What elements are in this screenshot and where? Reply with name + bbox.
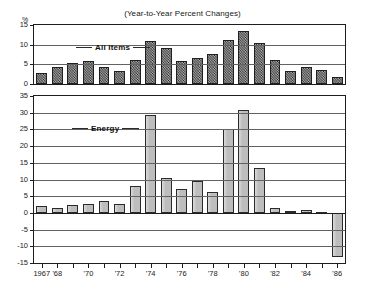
page-title: (Year-to-Year Percent Changes): [0, 9, 365, 18]
chart-page: (Year-to-Year Percent Changes) 151050 % …: [0, 0, 365, 301]
x-axis-tick-mark: [166, 264, 167, 268]
x-axis-tick-mark: [228, 264, 229, 268]
x-axis-tick-mark: [337, 264, 338, 268]
gridline: [34, 64, 345, 65]
gridline: [34, 163, 345, 164]
leader-line-right: [133, 47, 150, 48]
gridline: [34, 230, 345, 231]
bar: [207, 192, 218, 213]
x-axis-tick-label: '78: [208, 269, 218, 278]
y-axis-tick-mark: [30, 84, 33, 85]
gridline: [34, 246, 345, 247]
bar: [176, 189, 187, 213]
y-axis-tick-mark: [30, 64, 33, 65]
x-axis-tick-label: '72: [115, 269, 125, 278]
x-axis-tick-label: '82: [270, 269, 280, 278]
bar: [238, 31, 249, 84]
bar: [238, 110, 249, 213]
bar: [52, 67, 63, 84]
leader-line-left: [72, 128, 88, 129]
y-axis-tick-mark: [30, 163, 33, 164]
gridline: [34, 146, 345, 147]
series-label-energy-text: Energy: [88, 124, 122, 133]
series-label-energy: Energy: [72, 124, 139, 133]
bar: [316, 70, 327, 84]
bar: [301, 67, 312, 84]
x-axis-tick-label: '68: [52, 269, 62, 278]
y-axis-tick-label: 25: [6, 125, 28, 133]
x-axis-tick-mark: [291, 264, 292, 268]
bar: [36, 206, 47, 213]
bar: [130, 186, 141, 213]
x-axis-tick-mark: [259, 264, 260, 268]
y-axis-tick-label: 10: [6, 41, 28, 49]
x-axis-tick-mark: [306, 264, 307, 268]
y-axis-tick-label: 15: [6, 159, 28, 167]
x-axis-tick-mark: [120, 264, 121, 268]
y-axis-tick-mark: [30, 113, 33, 114]
y-axis-tick-label: -10: [6, 242, 28, 250]
bar: [114, 71, 125, 84]
x-axis-tick-mark: [151, 264, 152, 268]
x-axis-tick-label: '84: [301, 269, 311, 278]
y-axis-tick-mark: [30, 213, 33, 214]
y-axis-tick-mark: [30, 196, 33, 197]
bar: [223, 40, 234, 84]
y-axis-tick-mark: [30, 246, 33, 247]
y-axis-tick-mark: [30, 180, 33, 181]
y-axis-tick-label: 0: [6, 80, 28, 88]
bar: [254, 168, 265, 213]
bar: [99, 67, 110, 84]
x-axis-tick-mark: [73, 264, 74, 268]
bar-series-all-items: [33, 24, 346, 85]
leader-line-right: [122, 128, 139, 129]
gridline: [34, 196, 345, 197]
y-axis-tick-mark: [30, 230, 33, 231]
bar: [99, 201, 110, 213]
x-axis-tick-mark: [104, 264, 105, 268]
series-label-all-items-text: All Items: [92, 43, 133, 52]
y-axis-tick-mark: [30, 96, 33, 97]
x-axis-tick-mark: [182, 264, 183, 268]
x-axis-tick-mark: [213, 264, 214, 268]
gridline: [34, 113, 345, 114]
y-axis-tick-label: 5: [6, 60, 28, 68]
y-axis-tick-label: 30: [6, 109, 28, 117]
bar: [285, 71, 296, 84]
gridline: [34, 180, 345, 181]
series-label-all-items: All Items: [76, 43, 150, 52]
bar: [192, 181, 203, 213]
y-axis-tick-label: 5: [6, 192, 28, 200]
y-axis-tick-mark: [30, 146, 33, 147]
bar: [67, 63, 78, 84]
x-axis-tick-label: '86: [332, 269, 342, 278]
bar: [67, 205, 78, 213]
x-axis-tick-mark: [244, 264, 245, 268]
bar: [207, 54, 218, 84]
bar: [114, 204, 125, 213]
bar: [36, 73, 47, 84]
bar: [223, 129, 234, 213]
y-axis-tick-label: 0: [6, 209, 28, 217]
bar: [332, 77, 343, 84]
y-axis-tick-label: 35: [6, 92, 28, 100]
x-axis-tick-label: '74: [146, 269, 156, 278]
y-axis-tick-mark: [30, 45, 33, 46]
x-axis-tick-label: '80: [239, 269, 249, 278]
x-axis-tick-label: '70: [84, 269, 94, 278]
bar: [161, 48, 172, 84]
zero-axis-line: [34, 213, 345, 214]
x-axis-tick-mark: [135, 264, 136, 268]
bar: [332, 213, 343, 257]
y-axis-tick-label: 20: [6, 142, 28, 150]
y-axis-tick-label: -15: [6, 259, 28, 267]
y-axis-tick-label: -5: [6, 226, 28, 234]
x-axis-tick-label: 1967: [33, 269, 50, 278]
x-axis-tick-mark: [275, 264, 276, 268]
x-axis: 1967'68'70'72'74'76'78'80'82'84'86: [33, 264, 346, 286]
leader-line-left: [76, 47, 92, 48]
x-axis-tick-mark: [322, 264, 323, 268]
y-axis-tick-label: 10: [6, 176, 28, 184]
x-axis-tick-mark: [88, 264, 89, 268]
x-axis-tick-label: '76: [177, 269, 187, 278]
